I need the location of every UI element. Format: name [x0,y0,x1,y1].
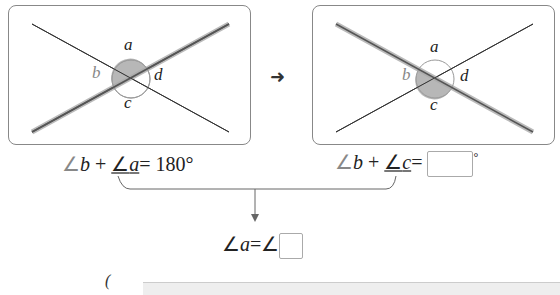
equation-result: ∠a=∠ [222,232,303,259]
answer-box-angle[interactable] [279,233,303,259]
angle-symbol: ∠ [261,233,279,255]
angle-symbol: ∠ [222,233,240,255]
equals-sign: = [250,233,261,255]
bottom-strip [143,282,560,295]
var-a: a [240,233,250,255]
open-paren: ( [105,272,110,290]
